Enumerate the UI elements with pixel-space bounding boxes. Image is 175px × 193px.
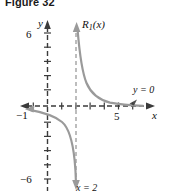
x-tick-label-5: 5 xyxy=(114,111,120,122)
curve-left-branch xyxy=(25,106,80,190)
curve-label-name: R xyxy=(82,18,89,30)
y-axis-label: y xyxy=(38,18,43,29)
curve-label-argument: (x) xyxy=(93,18,105,30)
figure-title: Figure 32 xyxy=(5,0,55,8)
y-tick-label-neg6: −6 xyxy=(20,174,32,185)
vertical-asymptote-label: x = 2 xyxy=(76,183,97,193)
curve-label: R1(x) xyxy=(82,19,105,32)
horizontal-asymptote-label: y = 0 xyxy=(133,85,154,95)
y-tick-label-6: 6 xyxy=(26,29,32,40)
x-axis-label: x xyxy=(152,110,157,121)
x-tick-label-neg1: −1 xyxy=(16,110,28,121)
